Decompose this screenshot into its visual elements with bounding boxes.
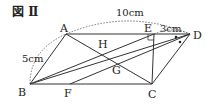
point-label-f: F <box>64 87 72 100</box>
measure-ed: 3cm <box>160 23 182 34</box>
point-label-c: C <box>148 88 156 101</box>
point-label-e: E <box>144 22 152 35</box>
point-label-h: H <box>98 38 108 51</box>
line-fd <box>70 34 190 84</box>
line-ec <box>152 34 154 84</box>
point-label-b: B <box>18 86 26 99</box>
point-label-a: A <box>59 22 69 35</box>
point-label-g: G <box>112 64 121 77</box>
measure-ab: 5cm <box>22 53 44 64</box>
angle-mark-dot <box>175 36 178 39</box>
figure-title: 図 Ⅱ <box>12 5 38 19</box>
angle-mark-dot <box>179 41 182 44</box>
figure-canvas: 図 Ⅱ A D B C E F H G 10cm 5cm 3cm <box>0 0 215 106</box>
line-bd <box>30 34 190 84</box>
measure-ad: 10cm <box>116 7 144 18</box>
point-label-d: D <box>193 29 202 42</box>
